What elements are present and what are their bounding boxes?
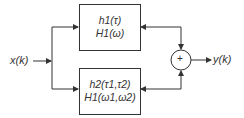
block-1-impulse: h1(τ) — [80, 14, 140, 27]
block-2-text: h2(τ1,τ2) H1(ω1,ω2) — [80, 78, 140, 104]
block-2-impulse: h2(τ1,τ2) — [80, 78, 140, 91]
output-label: y(k) — [213, 54, 231, 65]
block-1-transfer: H1(ω) — [80, 27, 140, 40]
block-1-text: h1(τ) H1(ω) — [80, 14, 140, 40]
block-2-transfer: H1(ω1,ω2) — [80, 91, 140, 104]
sum-symbol: + — [177, 54, 183, 64]
input-label: x(k) — [10, 55, 28, 66]
